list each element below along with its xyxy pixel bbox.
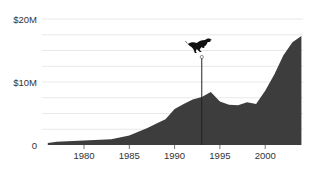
marker-pin xyxy=(200,55,203,58)
y-tick-label: $20M xyxy=(13,14,37,25)
x-tick-label: 1990 xyxy=(164,150,185,161)
x-axis: 19801985199019952000 xyxy=(73,145,275,161)
x-tick-label: 1995 xyxy=(209,150,230,161)
y-tick-label: $10M xyxy=(13,77,37,88)
area-chart: 0$10M$20M 19801985199019952000 xyxy=(0,0,315,175)
y-axis: 0$10M$20M xyxy=(13,14,37,151)
x-tick-label: 2000 xyxy=(255,150,276,161)
area-series xyxy=(48,36,302,145)
y-tick-label: 0 xyxy=(32,140,37,151)
x-tick-label: 1985 xyxy=(119,150,140,161)
x-tick-label: 1980 xyxy=(73,150,94,161)
